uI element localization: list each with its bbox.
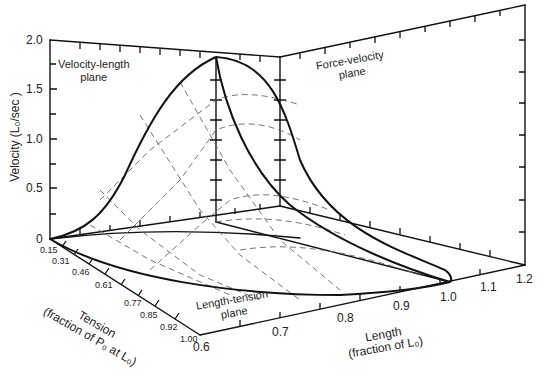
length-tick: 0.9 [393, 299, 410, 313]
floor-right-edge [280, 206, 525, 265]
tension-tick: 0.92 [160, 322, 178, 332]
length-tick: 0.6 [193, 340, 210, 354]
tension-tick: 0.77 [124, 298, 142, 308]
velocity-tick-2-0: 2.0 [26, 33, 43, 47]
velocity-tick-0-5: 0.5 [26, 181, 43, 195]
tension-tick: 0.15 [40, 245, 58, 255]
tension-tick: 0.85 [140, 310, 158, 320]
velocity-tick-1-5: 1.5 [26, 82, 43, 96]
vl-plane-top-edge [50, 40, 280, 57]
length-tick: 1.1 [480, 280, 497, 294]
tension-tick: 0.61 [95, 280, 113, 290]
velocity-length-curve [50, 57, 216, 239]
velocity-axis-label: Velocity (L₀/sec ) [8, 92, 22, 182]
fv-plane-top-edge [280, 5, 525, 57]
velocity-length-plane-label: Velocity-length plane [58, 58, 130, 84]
tension-tick: 0.31 [52, 256, 70, 266]
length-tick: 0.8 [337, 311, 354, 325]
length-tick: 0.7 [272, 325, 289, 339]
length-tick: 1.0 [440, 290, 457, 304]
velocity-tick-1-0: 1.0 [26, 132, 43, 146]
tension-tick: 0.46 [72, 267, 90, 277]
velocity-tick-0: 0 [36, 232, 43, 246]
floor-mid-line [50, 231, 300, 239]
length-tick: 1.2 [516, 272, 533, 286]
